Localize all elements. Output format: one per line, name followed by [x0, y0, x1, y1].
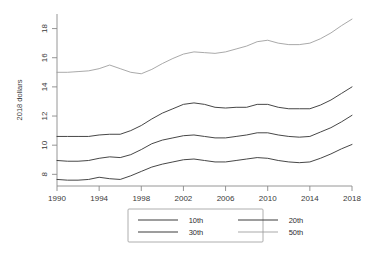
- y-tick-label: 14: [40, 82, 49, 91]
- series-group: [57, 19, 352, 180]
- x-tick-label: 1994: [90, 194, 108, 203]
- y-tick-label: 16: [40, 53, 49, 62]
- chart-container: 81012141618 2018 dollars 199019941998200…: [0, 0, 370, 254]
- x-tick-label: 1998: [132, 194, 150, 203]
- y-tick-label: 18: [40, 24, 49, 33]
- legend-label-10th: 10th: [189, 216, 204, 225]
- line-chart: 81012141618 2018 dollars 199019941998200…: [0, 0, 370, 254]
- y-axis-group: 81012141618 2018 dollars: [15, 14, 57, 186]
- y-tick-group: 81012141618: [40, 24, 57, 177]
- legend-label-30th: 30th: [189, 228, 204, 237]
- series-line-50th: [57, 19, 352, 74]
- series-line-30th: [57, 87, 352, 137]
- y-axis-label: 2018 dollars: [15, 79, 24, 120]
- legend-label-20th: 20th: [289, 216, 304, 225]
- series-line-20th: [57, 115, 352, 161]
- x-axis-group: 19901994199820022006201020142018: [48, 186, 361, 203]
- y-tick-label: 12: [40, 111, 49, 120]
- y-tick-label: 8: [40, 172, 49, 177]
- x-tick-group: 19901994199820022006201020142018: [48, 186, 361, 203]
- x-tick-label: 2014: [301, 194, 319, 203]
- y-tick-label: 10: [40, 140, 49, 149]
- x-tick-label: 2002: [175, 194, 193, 203]
- x-tick-label: 2018: [343, 194, 361, 203]
- legend-label-50th: 50th: [289, 228, 304, 237]
- x-tick-label: 2006: [217, 194, 235, 203]
- chart-legend: 10th20th30th50th: [128, 209, 303, 242]
- series-line-10th: [57, 144, 352, 180]
- legend-background: [128, 209, 263, 242]
- x-tick-label: 1990: [48, 194, 66, 203]
- x-tick-label: 2010: [259, 194, 277, 203]
